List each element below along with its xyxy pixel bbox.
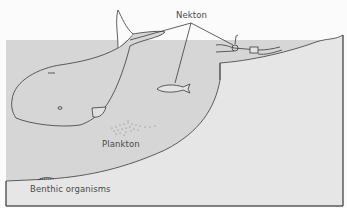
nekton-label: Nekton	[176, 10, 207, 20]
plankton-label: Plankton	[102, 139, 140, 149]
marine-diagram	[0, 0, 347, 208]
benthic-label: Benthic organisms	[30, 184, 111, 194]
